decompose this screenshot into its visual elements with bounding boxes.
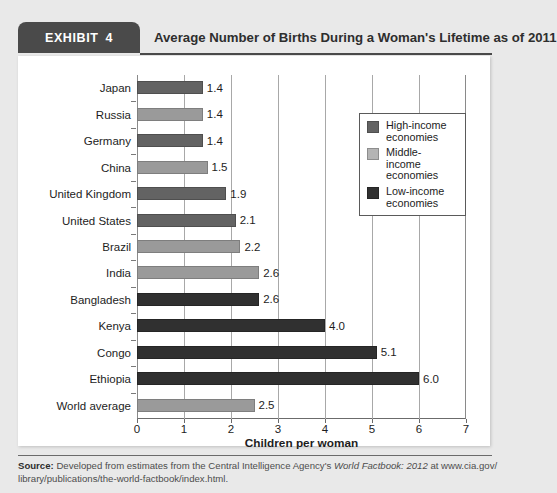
category-label-ethiopia: Ethiopia [89,373,131,385]
bar-brazil [137,240,240,253]
chart-legend: High-income economiesMiddle-income econo… [359,113,466,216]
source-note: Source: Developed from estimates from th… [18,460,498,485]
bar-value-label: 1.4 [207,135,223,147]
category-tick [131,181,136,182]
exhibit-header: EXHIBIT 4 Average Number of Births Durin… [18,22,492,54]
bar-bangladesh [137,293,259,306]
bar-value-label: 1.5 [212,161,228,173]
bar-value-label: 2.2 [244,241,260,253]
category-label-russia: Russia [96,109,131,121]
category-tick [131,234,136,235]
bar-china [137,161,208,174]
chart-card: JapanRussiaGermanyChinaUnited KingdomUni… [18,56,490,446]
bar-congo [137,346,377,359]
legend-item-high-income[interactable]: High-income economies [367,120,456,143]
bar-value-label: 5.1 [381,346,397,358]
source-url-line2: library/publications/the-world-factbook/… [18,473,228,484]
bar-value-label: 1.4 [207,82,223,94]
bar-value-label: 2.5 [259,399,275,411]
bar-row: 2.6 [137,266,466,279]
category-label-united-states: United States [62,215,131,227]
bar-value-label: 1.4 [207,108,223,120]
legend-item-low-income[interactable]: Low-income economies [367,186,456,209]
x-tick-label-6: 6 [416,423,422,435]
bar-value-label: 6.0 [423,373,439,385]
legend-swatch-icon [367,187,379,199]
category-tick [131,260,136,261]
bar-row: 2.2 [137,240,466,253]
category-tick [131,366,136,367]
exhibit-badge: EXHIBIT 4 [18,22,140,53]
bar-row: 1.4 [137,81,466,94]
legend-swatch-icon [367,148,379,160]
legend-swatch-icon [367,121,379,133]
source-publication: World Factbook: 2012 [334,460,428,471]
plot-area: 1.41.41.41.51.92.12.22.62.64.05.16.02.5 … [137,75,466,419]
bar-japan [137,81,203,94]
legend-label: Low-income economies [386,186,444,209]
category-tick [131,207,136,208]
legend-label: Middle-income economies [386,147,456,182]
x-tick-label-3: 3 [275,423,281,435]
exhibit-badge-label: EXHIBIT [45,31,99,45]
category-label-bangladesh: Bangladesh [70,294,131,306]
x-tick-label-0: 0 [134,423,140,435]
category-axis: JapanRussiaGermanyChinaUnited KingdomUni… [18,75,131,419]
bar-united-states [137,214,236,227]
bar-row: 5.1 [137,346,466,359]
bar-kenya [137,319,325,332]
bar-value-label: 1.9 [230,188,246,200]
x-tick-label-1: 1 [181,423,187,435]
bar-russia [137,108,203,121]
legend-item-middle-income[interactable]: Middle-income economies [367,147,456,182]
category-label-germany: Germany [84,135,131,147]
category-tick [131,393,136,394]
category-label-congo: Congo [97,347,131,359]
bar-row: 4.0 [137,319,466,332]
category-tick [131,313,136,314]
category-label-japan: Japan [100,82,131,94]
bar-world-average [137,399,255,412]
legend-label: High-income economies [386,120,447,143]
bar-india [137,266,259,279]
x-tick-label-7: 7 [463,423,469,435]
source-divider [18,455,492,456]
bar-value-label: 2.6 [263,293,279,305]
category-label-united-kingdom: United Kingdom [49,188,131,200]
category-tick [131,287,136,288]
bar-united-kingdom [137,187,226,200]
x-tick-label-5: 5 [369,423,375,435]
source-text-b: at www.cia.gov/ [428,460,497,471]
bar-row: 2.5 [137,399,466,412]
bar-value-label: 2.1 [240,214,256,226]
exhibit-badge-number: 4 [105,31,113,45]
category-label-india: India [106,267,131,279]
category-label-world-average: World average [56,400,131,412]
x-tick-label-4: 4 [322,423,328,435]
category-tick [131,154,136,155]
x-tick-label-2: 2 [228,423,234,435]
category-label-kenya: Kenya [98,320,131,332]
bar-row: 2.6 [137,293,466,306]
header-divider [140,53,492,55]
category-label-china: China [101,162,131,174]
category-label-brazil: Brazil [102,241,131,253]
source-text-a: Developed from estimates from the Centra… [54,460,334,471]
category-tick [131,101,136,102]
bar-germany [137,134,203,147]
source-prefix: Source: [18,460,54,471]
bar-ethiopia [137,372,419,385]
x-axis-title: Children per woman [137,436,466,450]
exhibit-title: Average Number of Births During a Woman'… [154,22,557,53]
bar-row: 6.0 [137,372,466,385]
category-tick [131,128,136,129]
category-tick [131,340,136,341]
bar-value-label: 4.0 [329,320,345,332]
bar-value-label: 2.6 [263,267,279,279]
